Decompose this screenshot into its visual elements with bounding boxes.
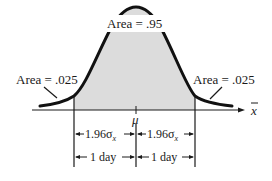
day-span-left-label: 1 day bbox=[90, 150, 116, 164]
diagram-svg: x μ Area = .95 Area = .025 Area = .025 1… bbox=[0, 0, 272, 181]
day-span-right-label: 1 day bbox=[151, 150, 177, 164]
normal-curve-diagram: x μ Area = .95 Area = .025 Area = .025 1… bbox=[0, 0, 272, 181]
mean-label: μ bbox=[131, 112, 139, 127]
day-span-left: 1 day bbox=[75, 150, 135, 164]
axis-label: x bbox=[250, 103, 257, 118]
x-axis-arrowhead bbox=[238, 108, 245, 113]
sigma-span-left: 1.96σx bbox=[75, 127, 135, 143]
sigma-span-right: 1.96σx bbox=[137, 127, 194, 143]
sigma-span-left-label: 1.96σx bbox=[85, 127, 116, 143]
left-tail-pointer bbox=[44, 87, 57, 98]
center-area-label: Area = .95 bbox=[107, 16, 162, 31]
right-tail-pointer bbox=[210, 87, 222, 99]
left-tail-label: Area = .025 bbox=[16, 72, 78, 87]
sigma-span-right-label: 1.96σx bbox=[147, 127, 178, 143]
right-tail-label: Area = .025 bbox=[193, 72, 255, 87]
day-span-right: 1 day bbox=[137, 150, 194, 164]
